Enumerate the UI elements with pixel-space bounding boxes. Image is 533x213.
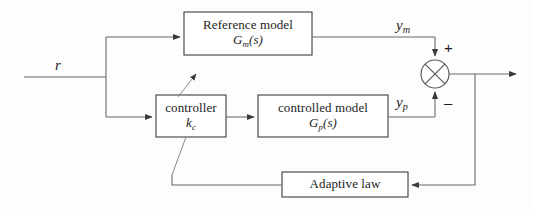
wire-error-feedback-to-adaptive-law (412, 74, 475, 185)
adaptive-law-block[interactable] (282, 172, 408, 197)
controlled-model-block[interactable] (258, 95, 388, 137)
block-diagram-canvas: Reference model Gm(s) controller kc cont… (0, 0, 533, 213)
wire-adaptive-law-diagonal-lower (172, 137, 186, 175)
reference-model-block[interactable] (184, 12, 312, 55)
diagram-vector-layer (0, 0, 533, 213)
wire-adaptive-law-output (172, 175, 282, 185)
wire-adaptive-tuning-arrow-to-controller (178, 74, 196, 97)
controller-block[interactable] (156, 95, 226, 137)
